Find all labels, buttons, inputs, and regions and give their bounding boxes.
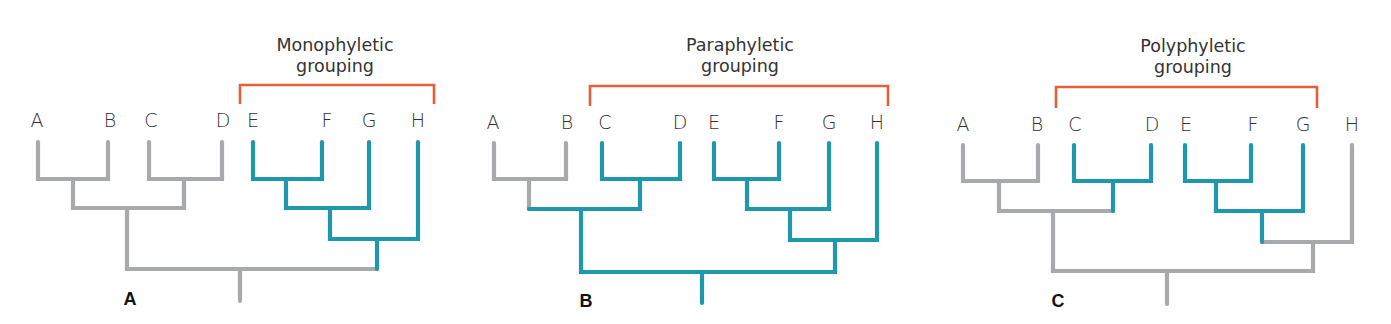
leaf-label-a: A bbox=[957, 113, 970, 135]
leaf-label-a: A bbox=[487, 111, 500, 133]
panel-a-title-line-2: grouping bbox=[296, 56, 374, 76]
leaf-label-c: C bbox=[598, 111, 611, 133]
panel-a-label: A bbox=[124, 289, 137, 309]
leaf-label-f: F bbox=[774, 111, 785, 133]
leaf-label-g: G bbox=[362, 109, 377, 131]
leaf-label-d: D bbox=[1145, 113, 1160, 135]
branch-efgh bbox=[330, 142, 418, 239]
branch-abcd bbox=[999, 181, 1113, 211]
panel-c-tree bbox=[963, 145, 1352, 304]
branch-cd bbox=[149, 142, 222, 179]
cladogram-figure: Monophyletic grouping A B C D E F G H bbox=[0, 0, 1391, 324]
panel-paraphyletic: Paraphyletic grouping A B C D E F G H bbox=[487, 35, 889, 311]
leaf-label-g: G bbox=[822, 111, 837, 133]
leaf-label-g: G bbox=[1296, 113, 1311, 135]
leaf-label-e: E bbox=[247, 109, 259, 131]
leaf-label-h: H bbox=[411, 109, 425, 131]
branch-efg bbox=[747, 143, 829, 209]
panel-polyphyletic: Polyphyletic grouping A B C D E F G H bbox=[957, 36, 1360, 311]
branch-abcd bbox=[529, 179, 640, 209]
branch-efgh bbox=[1262, 145, 1352, 242]
panel-a-grouping-bracket bbox=[240, 85, 434, 104]
leaf-label-e: E bbox=[708, 111, 720, 133]
branch-efg bbox=[1216, 145, 1303, 211]
branch-ab bbox=[38, 142, 108, 179]
leaf-label-h: H bbox=[870, 111, 884, 133]
panel-b-label: B bbox=[580, 291, 593, 311]
leaf-label-e: E bbox=[1180, 113, 1192, 135]
panel-b-title-line-2: grouping bbox=[701, 56, 779, 76]
leaf-label-f: F bbox=[322, 109, 333, 131]
panel-b-title-line-1: Paraphyletic bbox=[686, 35, 794, 55]
branch-ef bbox=[253, 142, 322, 179]
panel-b-tree bbox=[494, 143, 877, 303]
panel-c-grouping-bracket bbox=[1056, 87, 1317, 108]
branch-efgh bbox=[790, 143, 877, 240]
leaf-label-b: B bbox=[104, 109, 116, 131]
panel-a-title-line-1: Monophyletic bbox=[276, 35, 393, 55]
panel-c-leaf-labels: A B C D E F G H bbox=[957, 113, 1360, 135]
leaf-label-b: B bbox=[561, 111, 573, 133]
leaf-label-c: C bbox=[1068, 113, 1081, 135]
branch-cd bbox=[602, 143, 680, 179]
panel-c-title-line-2: grouping bbox=[1154, 57, 1232, 77]
leaf-label-c: C bbox=[144, 109, 157, 131]
branch-efg bbox=[286, 142, 369, 208]
panel-a-leaf-labels: A B C D E F G H bbox=[31, 109, 426, 131]
panel-a-tree bbox=[38, 142, 418, 301]
branch-cd bbox=[1074, 145, 1151, 181]
branch-ab bbox=[494, 143, 566, 179]
panel-b-leaf-labels: A B C D E F G H bbox=[487, 111, 885, 133]
panel-c-label: C bbox=[1052, 291, 1065, 311]
leaf-label-h: H bbox=[1345, 113, 1359, 135]
panel-b-grouping-bracket bbox=[590, 86, 888, 106]
leaf-label-f: F bbox=[1248, 113, 1259, 135]
panel-monophyletic: Monophyletic grouping A B C D E F G H bbox=[31, 35, 435, 309]
leaf-label-a: A bbox=[31, 109, 44, 131]
branch-abcd bbox=[73, 179, 184, 208]
branch-ef bbox=[1185, 145, 1251, 181]
branch-ef bbox=[714, 143, 779, 179]
branch-ab bbox=[963, 145, 1038, 181]
leaf-label-d: D bbox=[673, 111, 688, 133]
leaf-label-d: D bbox=[216, 109, 231, 131]
leaf-label-b: B bbox=[1031, 113, 1043, 135]
panel-c-title-line-1: Polyphyletic bbox=[1140, 36, 1245, 56]
